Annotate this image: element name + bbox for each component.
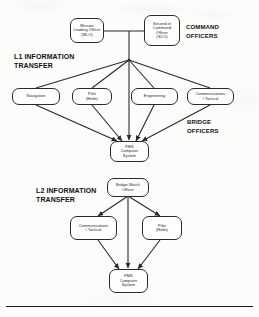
edge-l2pilot-fms: [138, 240, 160, 269]
node-engineering[interactable]: Engineering: [131, 88, 178, 105]
node-bridge-watch-officer[interactable]: Bridge Watch Officer: [107, 178, 149, 197]
node-mission-leading-officer[interactable]: Mission Leading Officer (MLO): [70, 18, 104, 43]
edge-bwo-comms: [98, 196, 128, 216]
group-label-bridge-officers: BRIDGE OFFICERS: [187, 118, 219, 135]
node-navigation[interactable]: Navigation: [12, 88, 60, 105]
node-communications-tactical-l2[interactable]: Communications / Tactical: [70, 216, 117, 240]
node-second-in-command-officer[interactable]: Second in Command Officer (SCO): [144, 15, 180, 46]
node-pilot-helm-l2[interactable]: Pilot (Helm): [142, 216, 182, 240]
l1-junction-node: [128, 59, 131, 62]
node-fms-computer-system-l2[interactable]: FMS Computer System: [109, 269, 148, 293]
edge-navigation-fms: [36, 105, 117, 141]
group-label-command-officers: COMMAND OFFICERS: [186, 23, 219, 40]
footer-divider: [6, 306, 253, 307]
diagram-page: L1 INFORMATION TRANSFER COMMAND OFFICERS…: [0, 0, 259, 317]
edge-pilot-fms: [92, 105, 122, 141]
node-communications-tactical[interactable]: Communications / Tactical: [187, 88, 234, 105]
node-pilot-helm[interactable]: Pilot (Helm): [72, 88, 112, 105]
edge-junction-pilot: [92, 60, 129, 88]
edge-l2comms-fms: [98, 240, 119, 269]
section-label-l2: L2 INFORMATION TRANSFER: [36, 187, 96, 205]
edge-bwo-pilot: [128, 196, 160, 216]
section-label-l1: L1 INFORMATION TRANSFER: [14, 53, 74, 71]
node-fms-computer-system-l1[interactable]: FMS Computer System: [110, 141, 149, 162]
